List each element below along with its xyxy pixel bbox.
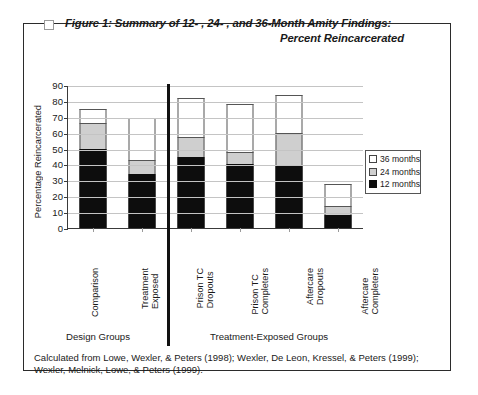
y-tickmark-40 — [64, 165, 68, 166]
footnote-line-2: Wexler, Melnick, Lowe, & Peters (1999). — [34, 364, 439, 376]
legend-label: 24 months — [380, 167, 420, 177]
x-axis-category-label-text: Treatment Exposed — [139, 268, 160, 309]
y-axis-label-text: Percentage Reincarcerated — [33, 105, 43, 218]
chart-legend: 36 months24 months12 months — [365, 150, 421, 194]
y-tickmark-90 — [64, 86, 68, 87]
legend-item-24-months[interactable]: 24 months — [368, 166, 418, 179]
x-axis-category-label: Aftercare Dropouts — [304, 268, 325, 305]
x-tickmark — [191, 228, 192, 232]
x-axis-category-label: Aftercare Completers — [359, 268, 380, 315]
y-axis-tick-80: 80 — [52, 97, 63, 107]
group-label-row: Design Groups Treatment-Exposed Groups — [33, 331, 458, 347]
legend-swatch-icon — [369, 155, 377, 163]
y-axis-tick-40: 40 — [52, 161, 63, 171]
bar-slot — [117, 86, 166, 228]
gridline-40 — [68, 165, 363, 166]
stacked-bar[interactable] — [128, 118, 155, 228]
legend-item-12-months[interactable]: 12 months — [368, 178, 418, 191]
x-axis-category-label: Treatment Exposed — [139, 268, 160, 309]
bar-slot — [166, 86, 215, 228]
y-axis-tick-90: 90 — [52, 81, 63, 91]
bar-segment-12-months — [79, 149, 106, 228]
y-tickmark-30 — [64, 181, 68, 182]
bar-segment-12-months — [227, 164, 254, 228]
y-tickmark-80 — [64, 102, 68, 103]
plot-area — [67, 86, 363, 229]
x-tickmark — [93, 228, 94, 232]
bar-slot — [314, 86, 363, 228]
bar-segment-36-months — [276, 95, 303, 133]
legend-swatch-icon — [369, 180, 377, 188]
y-axis-tick-60: 60 — [52, 129, 63, 139]
x-label-slot: Prison TC Completers — [232, 268, 287, 330]
y-axis-tick-30: 30 — [52, 177, 63, 187]
bar-slot — [68, 86, 117, 228]
gridline-90 — [68, 86, 363, 87]
group-label-treatment: Treatment-Exposed Groups — [210, 331, 328, 342]
page-title: Figure 1: Summary of 12- , 24- , and 36-… — [65, 16, 406, 45]
gridline-50 — [68, 150, 363, 151]
figure-title-row: Figure 1: Summary of 12- , 24- , and 36-… — [44, 16, 406, 45]
x-axis-category-label-text: Aftercare Dropouts — [304, 268, 325, 305]
gridline-70 — [68, 118, 363, 119]
x-label-slot: Treatment Exposed — [122, 268, 177, 330]
y-axis-tick-10: 10 — [52, 208, 63, 218]
x-label-slot: Aftercare Completers — [342, 268, 397, 330]
y-tickmark-20 — [64, 197, 68, 198]
y-axis-tick-labels: 9080706050403020100 — [45, 86, 65, 229]
x-axis-category-label-text: Prison TC Completers — [249, 268, 270, 315]
x-label-slot: Comparison — [67, 268, 122, 330]
y-tickmark-10 — [64, 213, 68, 214]
y-axis-tick-0: 0 — [58, 224, 63, 234]
x-tickmark — [240, 228, 241, 232]
bar-segment-24-months — [79, 123, 106, 148]
bar-segment-36-months — [79, 109, 106, 123]
y-axis-tick-50: 50 — [52, 145, 63, 155]
legend-swatch-icon — [369, 168, 377, 176]
x-label-slot: Prison TC Dropouts — [177, 268, 232, 330]
gridline-10 — [68, 213, 363, 214]
square-bullet-icon — [44, 20, 54, 30]
figure-title-line-2: Percent Reincarcerated — [65, 31, 406, 46]
gridline-20 — [68, 197, 363, 198]
y-axis-tick-20: 20 — [52, 192, 63, 202]
x-axis-category-label-text: Comparison — [89, 268, 100, 317]
bar-slot — [265, 86, 314, 228]
gridline-30 — [68, 181, 363, 182]
legend-label: 36 months — [380, 154, 420, 164]
x-label-slot: Aftercare Dropouts — [287, 268, 342, 330]
bar-segment-36-months — [227, 104, 254, 152]
x-axis-category-labels: ComparisonTreatment ExposedPrison TC Dro… — [67, 268, 397, 330]
bar-series-container — [68, 86, 363, 228]
bar-slot — [216, 86, 265, 228]
x-axis-category-label: Prison TC Dropouts — [194, 268, 215, 308]
bar-segment-36-months — [128, 118, 155, 159]
x-tickmark — [338, 228, 339, 232]
x-axis-category-label: Comparison — [89, 268, 100, 317]
stacked-bar[interactable] — [276, 95, 303, 228]
x-axis-category-label-text: Prison TC Dropouts — [194, 268, 215, 308]
legend-label: 12 months — [380, 179, 420, 189]
y-tickmark-60 — [64, 134, 68, 135]
bar-segment-36-months — [325, 184, 352, 206]
x-axis-category-label-text: Aftercare Completers — [359, 268, 380, 315]
x-axis-category-label: Prison TC Completers — [249, 268, 270, 315]
legend-item-36-months[interactable]: 36 months — [368, 153, 418, 166]
bar-segment-24-months — [128, 160, 155, 174]
chart-plot-wrapper: Percentage Reincarcerated 90807060504030… — [33, 76, 421, 268]
bar-segment-24-months — [227, 152, 254, 165]
footnote-line-1: Calculated from Lowe, Wexler, & Peters (… — [34, 352, 439, 364]
bar-segment-24-months — [177, 137, 204, 156]
y-tickmark-0 — [64, 229, 68, 230]
bar-segment-12-months — [325, 215, 352, 228]
figure-title-line-1: Figure 1: Summary of 12- , 24- , and 36-… — [65, 16, 406, 31]
bar-segment-12-months — [177, 157, 204, 229]
group-label-design: Design Groups — [66, 331, 130, 342]
stacked-bar[interactable] — [79, 109, 106, 228]
figure-footnote: Calculated from Lowe, Wexler, & Peters (… — [34, 352, 439, 377]
gridline-80 — [68, 102, 363, 103]
stacked-bar[interactable] — [325, 184, 352, 228]
y-axis-label: Percentage Reincarcerated — [31, 92, 45, 232]
gridline-60 — [68, 134, 363, 135]
y-axis-tick-70: 70 — [52, 113, 63, 123]
